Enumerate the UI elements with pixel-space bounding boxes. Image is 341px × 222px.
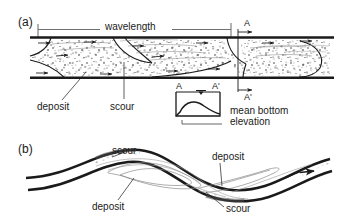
section-label-aprime-bottom: A' [244, 92, 252, 102]
cross-section-inset [176, 91, 222, 125]
scour-label-b-top: scour [112, 145, 137, 156]
scour-label-b-bottom: scour [226, 203, 251, 214]
panel-b-label: (b) [18, 142, 33, 156]
mean-bottom-elevation-line [182, 120, 222, 124]
mean-bottom-caption-line1: mean bottom [230, 105, 288, 116]
figure-svg: (a) wavelength [0, 0, 341, 222]
bed-profile-curve [176, 102, 220, 116]
section-label-a-top: A [244, 18, 250, 28]
deposit-label-a: deposit [37, 101, 69, 112]
panel-a-label: (a) [18, 15, 33, 29]
deposit-label-b-right: deposit [212, 151, 244, 162]
inset-label-aprime: A' [212, 81, 220, 91]
channel-area [26, 150, 332, 202]
scour-label-a: scour [110, 101, 135, 112]
deposit-label-b-left: deposit [92, 201, 124, 212]
wavelength-label: wavelength [104, 21, 156, 32]
mean-bottom-caption-line2: elevation [230, 116, 270, 127]
figure-container: (a) wavelength [0, 0, 341, 222]
water-level-triangle-icon [196, 91, 206, 96]
inset-label-a: A [176, 81, 182, 91]
